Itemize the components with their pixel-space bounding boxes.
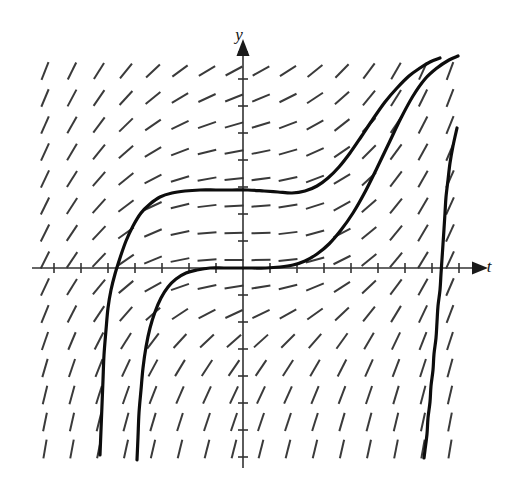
- slope-segment: [281, 334, 294, 347]
- slope-segment: [391, 306, 401, 322]
- slope-segment: [177, 413, 183, 431]
- slope-segment: [253, 66, 270, 75]
- slope-segment: [447, 62, 454, 80]
- slope-segment: [362, 280, 376, 293]
- slope-segment: [307, 120, 324, 129]
- slope-segment: [306, 148, 323, 156]
- slope-segment: [448, 440, 451, 459]
- slope-segment: [150, 386, 157, 404]
- slope-segment: [43, 386, 47, 404]
- slope-segment: [335, 307, 349, 320]
- slope-segment: [254, 335, 268, 348]
- slope-segment: [279, 149, 297, 154]
- slope-segment: [92, 253, 105, 267]
- slope-segment: [94, 63, 104, 79]
- slope-segment: [172, 65, 187, 76]
- slope-segment: [447, 89, 454, 107]
- slope-segment: [69, 386, 74, 404]
- slope-segment: [446, 116, 453, 134]
- slope-segment: [199, 66, 215, 76]
- slope-segment: [335, 92, 349, 105]
- slope-segment: [95, 359, 102, 377]
- slope-segment: [145, 282, 162, 291]
- slope-segment: [336, 333, 347, 348]
- slope-segment: [93, 145, 105, 160]
- slope-segment: [448, 386, 452, 405]
- slope-segment: [123, 386, 129, 404]
- slope-segment: [41, 252, 50, 269]
- slope-segment: [146, 92, 161, 104]
- slope-segment: [67, 279, 77, 295]
- slope-segment: [339, 386, 346, 404]
- slope-segment: [176, 386, 183, 403]
- slope-segment: [279, 177, 298, 181]
- slope-segment: [68, 62, 76, 79]
- slope-segment: [119, 146, 133, 159]
- slope-segment: [252, 233, 271, 234]
- slope-segment: [334, 282, 350, 292]
- slope-segment: [392, 332, 400, 349]
- slope-segment: [204, 413, 210, 431]
- slope-segment: [447, 305, 454, 323]
- slope-segment: [225, 94, 243, 101]
- slope-segment: [41, 224, 49, 241]
- slope-segment: [225, 205, 244, 206]
- slope-segment: [93, 280, 105, 295]
- slope-segment: [418, 198, 428, 214]
- slope-segment: [312, 413, 318, 431]
- slope-segment: [67, 252, 78, 268]
- slope-segment: [279, 205, 298, 208]
- slope-segment: [390, 171, 402, 186]
- slope-segment: [171, 149, 189, 156]
- slope-segment: [69, 359, 75, 377]
- slope-segment: [310, 360, 320, 376]
- slope-segment: [421, 413, 425, 432]
- slope-segment: [335, 64, 348, 78]
- slope-segment: [307, 93, 323, 103]
- slope-segment: [199, 310, 216, 319]
- slope-segment: [279, 259, 298, 261]
- slope-segment: [335, 119, 350, 131]
- slope-segment: [225, 286, 244, 289]
- slope-segment: [421, 386, 426, 404]
- slope-segment: [231, 413, 237, 431]
- slope-segment: [67, 144, 77, 160]
- slope-segment: [362, 200, 376, 212]
- slope-segment: [145, 147, 161, 157]
- slope-segment: [365, 359, 373, 376]
- slope-segment: [284, 386, 292, 403]
- slope-segment: [171, 284, 189, 290]
- slope-segment: [279, 285, 297, 290]
- slope-segment: [286, 440, 291, 458]
- slope-segment: [280, 94, 297, 103]
- slope-segment: [41, 143, 49, 160]
- slope-segment: [174, 334, 187, 348]
- slope-segment: [390, 279, 401, 294]
- t-axis-arrowhead: [472, 262, 488, 275]
- slope-segment: [145, 120, 161, 131]
- slope-segment: [172, 309, 188, 319]
- slope-segment: [252, 205, 271, 206]
- slope-segment: [67, 117, 76, 134]
- slope-segment: [171, 176, 189, 182]
- slope-segment: [198, 122, 216, 128]
- slope-segment: [178, 440, 183, 458]
- slope-segment: [120, 307, 132, 321]
- slope-segment: [306, 283, 324, 290]
- slope-segment: [225, 122, 243, 127]
- slope-segment: [225, 150, 244, 154]
- slope-segment: [252, 94, 270, 101]
- slope-segment: [42, 332, 48, 350]
- slope-segment: [124, 440, 128, 459]
- slope-segment: [447, 332, 453, 350]
- solution-curve-upper: [100, 58, 440, 455]
- slope-segment: [446, 251, 454, 268]
- slope-segment: [393, 386, 398, 404]
- slope-segment: [227, 335, 241, 348]
- slope-segment: [70, 440, 73, 459]
- slope-segment: [119, 173, 134, 185]
- slope-segment: [41, 278, 49, 295]
- slope-segment: [198, 232, 217, 234]
- slope-segment: [144, 256, 162, 263]
- slope-segment: [67, 198, 77, 214]
